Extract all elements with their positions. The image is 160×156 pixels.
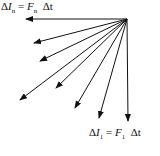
impulse-arrow-8 — [127, 19, 128, 121]
impulse-arrow-5 — [56, 19, 127, 88]
impulse-arrow-7 — [99, 19, 127, 118]
label-impulse-n: ΔIn = Fn Δt — [1, 0, 53, 15]
impulse-arrow-2 — [34, 19, 127, 43]
impulse-arrow-3 — [40, 19, 127, 61]
impulse-arrow-6 — [75, 19, 127, 108]
label-impulse-1: ΔI1 = F1 Δt — [89, 126, 141, 141]
impulse-arrow-4 — [20, 19, 127, 100]
